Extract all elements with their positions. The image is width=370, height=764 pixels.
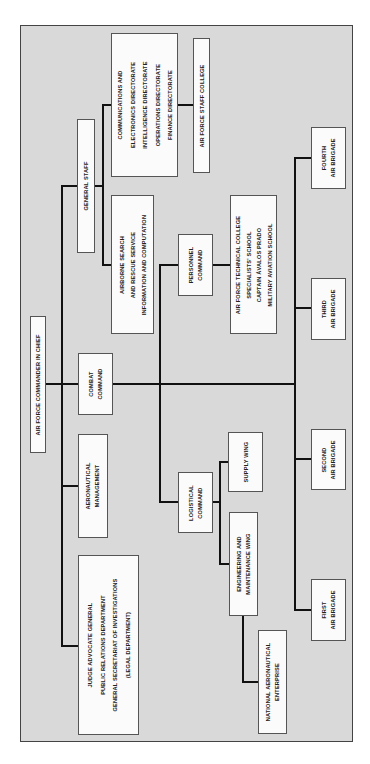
aeronautical-management-box: AERONAUTICAL MANAGEMENT (78, 434, 108, 538)
second-line: AIR BRIGADE (329, 440, 338, 479)
third-line: THIRD (320, 289, 329, 328)
second-brigade-box: SECOND AIR BRIGADE (311, 429, 346, 490)
engineering-line: MAINTENANCE WING (244, 533, 253, 594)
judge-line: GENERAL SECRETARIAT OF INVESTIGATIONS (109, 579, 122, 712)
directorate-line: OPERATIONS DIRECTORATE (151, 61, 164, 148)
logistical-connector (159, 501, 179, 503)
national-enterprise-box: NATIONAL AERONAUTICAL ENTERPRISE (258, 630, 287, 734)
directorate-line: ELECTRONICS DIRECTORATE (126, 61, 139, 148)
enterprise-line: ENTERPRISE (273, 643, 282, 722)
combat-command-box: COMBAT COMMAND (78, 353, 113, 415)
personnel-command-box: PERSONNEL COMMAND (178, 234, 213, 296)
commander-box: AIR FORCE COMMANDER IN CHIEF (30, 316, 46, 453)
fourth-brigade-box: FOURTH AIR BRIGADE (311, 127, 346, 189)
schools-line: SPECIALISTS' SCHOOL (243, 215, 254, 314)
enterprise-spine (242, 615, 244, 683)
commander-connector (45, 383, 62, 385)
judge-connector (61, 645, 79, 647)
airborne-line: AND RESCUE SERVICE (127, 214, 138, 314)
engineering-wing-box: ENGINEERING AND MAINTENANCE WING (229, 512, 258, 616)
airborne-line: AIRBORNE SEARCH (116, 214, 127, 314)
staff-college-label: AIR FORCE STAFF COLLEGE (197, 64, 206, 147)
judge-advocate-box: JUDGE ADVOCATE GENERAL PUBLIC RELATIONS … (78, 555, 139, 735)
schools-line: AIR FORCE TECHNICAL COLLEGE (233, 215, 244, 314)
commander-label: AIR FORCE COMMANDER IN CHIEF (34, 334, 43, 435)
logistical-spine (219, 461, 221, 565)
logistical-line: LOGISTICAL (187, 485, 196, 521)
general-staff-label: GENERAL STAFF (82, 161, 91, 210)
directorate-line: COMMUNICATIONS AND (113, 61, 126, 148)
brigade-spine (294, 157, 296, 611)
airborne-box: AIRBORNE SEARCH AND RESCUE SERVICE INFOR… (111, 195, 154, 334)
schools-line: CAPTAIN ÁVALOS PRADO (254, 215, 265, 314)
combat-line: COMMAND (96, 368, 105, 399)
main-spine-line (61, 185, 63, 647)
general-staff-spine (102, 104, 104, 266)
schools-connector (212, 264, 231, 266)
judge-line: (LEGAL DEPARTMENT) (121, 579, 134, 712)
second-brigade-connector (294, 458, 312, 460)
aero-mgmt-connector (61, 485, 79, 487)
enterprise-line: NATIONAL AERONAUTICAL (264, 643, 273, 722)
first-brigade-connector (294, 609, 312, 611)
general-staff-box: GENERAL STAFF (77, 119, 95, 253)
fourth-line: FOURTH (320, 138, 329, 177)
directorates-box: COMMUNICATIONS AND ELECTRONICS DIRECTORA… (111, 33, 178, 177)
fourth-line: AIR BRIGADE (329, 138, 338, 177)
supply-wing-box: SUPPLY WING (228, 432, 263, 492)
personnel-line: PERSONNEL (187, 247, 196, 284)
judge-line: PUBLIC RELATIONS DEPARTMENT (96, 579, 109, 712)
schools-line: MILITARY AVIATION SCHOOL (264, 215, 275, 314)
first-line: FIRST (320, 590, 329, 629)
first-line: AIR BRIGADE (329, 590, 338, 629)
aero-mgmt-line: AERONAUTICAL (84, 462, 93, 509)
supply-wing-label: SUPPLY WING (241, 442, 250, 483)
combat-line: COMBAT (87, 368, 96, 399)
personnel-line: COMMAND (196, 247, 205, 284)
command-spine (159, 264, 161, 503)
fourth-brigade-connector (294, 157, 312, 159)
third-line: AIR BRIGADE (329, 289, 338, 328)
aero-mgmt-line: MANAGEMENT (93, 462, 102, 509)
judge-line: JUDGE ADVOCATE GENERAL (84, 579, 97, 712)
logistical-command-box: LOGISTICAL COMMAND (178, 472, 213, 533)
first-brigade-box: FIRST AIR BRIGADE (311, 579, 346, 641)
enterprise-connector (242, 681, 259, 683)
staff-college-box: AIR FORCE STAFF COLLEGE (193, 38, 210, 173)
third-brigade-connector (294, 307, 312, 309)
second-line: SECOND (320, 440, 329, 479)
logistical-line: COMMAND (196, 485, 205, 521)
airborne-line: INFORMATION AND COMPUTATION (138, 214, 149, 314)
personnel-connector (159, 264, 179, 266)
schools-box: AIR FORCE TECHNICAL COLLEGE SPECIALISTS'… (230, 195, 277, 334)
staff-college-connector (177, 104, 194, 106)
general-staff-connector (61, 185, 78, 187)
third-brigade-box: THIRD AIR BRIGADE (311, 278, 346, 340)
directorate-line: FINANCE DIRECTORATE (163, 61, 176, 148)
engineering-line: ENGINEERING AND (235, 533, 244, 594)
directorate-line: INTELLIGENCE DIRECTORATE (138, 61, 151, 148)
